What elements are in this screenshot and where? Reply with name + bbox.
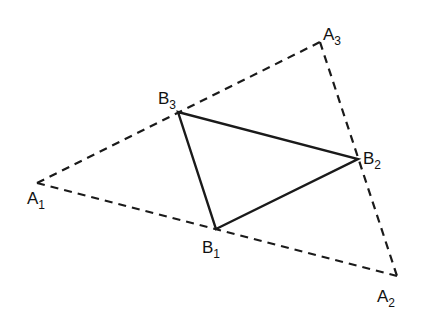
triangle-diagram: A1 A2 A3 B1 B2 B3 (0, 0, 423, 329)
label-a1: A1 (27, 189, 45, 212)
outer-triangle-dashed (37, 42, 397, 276)
label-a2: A2 (377, 287, 395, 310)
inner-triangle-solid (178, 112, 358, 229)
label-a3: A3 (323, 25, 341, 48)
label-b2: B2 (363, 149, 381, 172)
triangle-b1-b2-b3 (178, 112, 358, 229)
label-b3: B3 (158, 89, 176, 112)
label-b1: B1 (202, 238, 220, 261)
